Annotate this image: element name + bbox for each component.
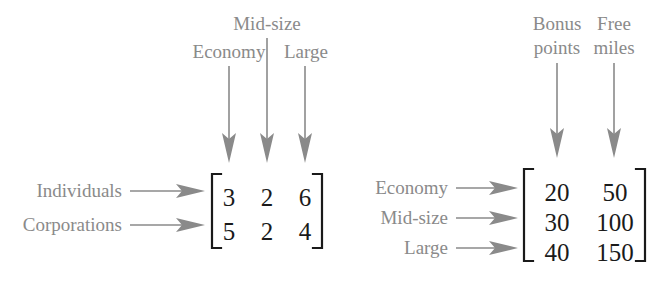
right-row-label-economy: Economy <box>330 177 448 199</box>
right-cell-r2c2: 100 <box>589 210 641 235</box>
right-cell-r3c1: 40 <box>532 240 582 265</box>
right-row-label-large: Large <box>330 237 448 259</box>
right-cell-r3c2: 150 <box>589 240 641 265</box>
left-row-label-individuals: Individuals <box>12 180 122 202</box>
right-row-arrow-economy <box>456 181 518 195</box>
left-column-label-mid-size: Mid-size <box>216 13 318 35</box>
left-column-label-large: Large <box>268 41 344 63</box>
right-column-label-free-miles-line1: Free <box>572 13 656 35</box>
right-row-label-mid-size: Mid-size <box>330 207 448 229</box>
right-cell-r2c1: 30 <box>532 210 582 235</box>
left-cell-r1c1: 3 <box>209 185 249 210</box>
right-column-arrow-free-miles <box>607 63 621 158</box>
left-cell-r1c2: 2 <box>247 185 287 210</box>
right-row-arrow-mid-size <box>456 211 518 225</box>
left-cell-r2c3: 4 <box>285 219 325 244</box>
left-row-arrow-corporations <box>130 218 205 232</box>
right-cell-r1c1: 20 <box>532 180 582 205</box>
left-column-arrow-large <box>298 66 312 163</box>
left-cell-r2c2: 2 <box>247 219 287 244</box>
right-cell-r1c2: 50 <box>589 180 641 205</box>
right-column-arrow-bonus-points <box>550 63 564 158</box>
right-row-arrow-large <box>456 241 518 255</box>
left-column-label-economy: Economy <box>176 41 282 63</box>
left-cell-r1c3: 6 <box>285 185 325 210</box>
matrix-figure: Economy Mid-size Large Individuals Corpo… <box>0 0 671 283</box>
left-row-label-corporations: Corporations <box>4 214 122 236</box>
left-cell-r2c1: 5 <box>209 219 249 244</box>
left-column-arrow-economy <box>222 66 236 163</box>
left-row-arrow-individuals <box>130 184 205 198</box>
right-column-label-free-miles-line2: miles <box>572 37 656 59</box>
